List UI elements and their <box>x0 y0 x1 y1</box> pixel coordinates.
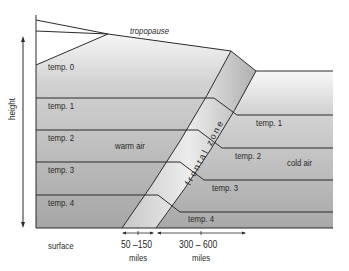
tropopause-label: tropopause <box>130 25 169 36</box>
distance-unit: miles <box>192 252 210 263</box>
warm-layer-label: temp. 0 <box>48 61 74 72</box>
cold-layer-label: temp. 4 <box>188 213 214 224</box>
surface-label: surface <box>48 240 74 251</box>
distance-unit: miles <box>129 252 147 263</box>
cold-layer-label: temp. 1 <box>256 117 282 128</box>
warm-layer-label: temp. 4 <box>48 197 74 208</box>
warm-layer-label: temp. 1 <box>48 100 74 111</box>
height-axis-label: height <box>6 98 17 120</box>
distance-value: 50 –150 <box>121 238 152 250</box>
cold-layer-label: temp. 2 <box>235 150 261 161</box>
warm-layer-label: temp. 3 <box>48 164 74 175</box>
cold-layer-label: temp. 3 <box>212 182 238 193</box>
warm-air-label: warm air <box>115 140 145 151</box>
warm-layer-label: temp. 2 <box>48 132 74 143</box>
distance-value: 300 – 600 <box>179 238 217 250</box>
cold-air-label: cold air <box>287 157 312 168</box>
